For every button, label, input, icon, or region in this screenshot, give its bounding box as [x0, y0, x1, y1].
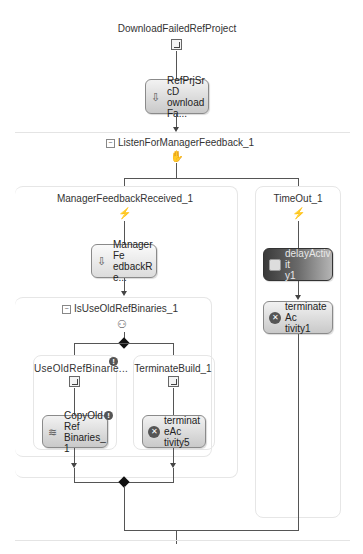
connector [173, 468, 174, 482]
ifelse-label[interactable]: −IsUseOldRefBinaries_1 [55, 303, 185, 314]
join-connector [124, 530, 299, 531]
sequence-icon[interactable] [69, 376, 80, 387]
warning-icon[interactable]: ! [104, 411, 113, 420]
activity-label-line2: ownloadFa... [167, 97, 204, 119]
sequence-icon[interactable] [168, 376, 179, 387]
delay-icon [269, 259, 281, 271]
collapse-toggle-icon[interactable]: − [62, 305, 71, 314]
connector [298, 334, 299, 530]
activity-managerfeedbackreceived[interactable]: ⇩ ManagerFeedbackRe... [91, 244, 157, 278]
activity-terminateactivity1[interactable]: ✕ terminateActivity1 [263, 301, 333, 334]
activity-terminateactivity5[interactable]: ✕ terminateActivity5 [142, 415, 206, 448]
connector [298, 221, 299, 248]
branch-connector [124, 178, 299, 179]
handle-external-event-icon: ⇩ [97, 255, 109, 267]
arrow-down-icon [121, 291, 127, 296]
event-driven-icon[interactable]: ⚡ [292, 207, 306, 220]
connector [124, 486, 125, 530]
connector [74, 468, 75, 482]
terminate-icon: ✕ [269, 312, 281, 324]
code-activity-icon: ≋ [48, 426, 60, 438]
root-sequence-label: DownloadFailedRefProject [112, 23, 242, 34]
ifelse-icon[interactable]: ⚇ [117, 318, 127, 331]
branch-label-timeout: TimeOut_1 [258, 193, 338, 204]
listen-label[interactable]: −ListenForManagerFeedback_1 [100, 137, 260, 148]
activity-copyoldrefbinaries[interactable]: ≋ CopyOldRefBinaries_1 [42, 415, 108, 448]
listen-icon[interactable]: ✋ [170, 150, 184, 163]
connector [176, 530, 177, 544]
activity-label-line1: RefPrjSrcD [167, 75, 205, 97]
terminate-icon: ✕ [148, 426, 160, 438]
connector [173, 388, 174, 415]
activity-delayactivity1[interactable]: delayActivity1 [263, 248, 333, 281]
event-driven-icon[interactable]: ⚡ [118, 207, 132, 220]
arrow-down-icon [295, 295, 301, 300]
listen-container-bottom-border [15, 540, 350, 541]
ifelse-branch-label: TerminateBuild_1 [134, 363, 212, 374]
collapse-toggle-icon[interactable]: − [106, 139, 115, 148]
branch-label-managerfeedback: ManagerFeedbackReceived_1 [50, 193, 200, 204]
connector [176, 163, 177, 178]
branch-connector [74, 343, 174, 344]
activity-refprjsrcdownload[interactable]: ⇩ RefPrjSrcDownloadFa... [145, 79, 209, 114]
connector [74, 343, 75, 355]
listen-container-top-border [15, 132, 350, 133]
download-activity-icon: ⇩ [151, 91, 163, 103]
sequence-icon[interactable] [171, 39, 182, 50]
connector [173, 343, 174, 355]
ifelse-branch-label: UseOldRefBinarie... [34, 363, 114, 374]
